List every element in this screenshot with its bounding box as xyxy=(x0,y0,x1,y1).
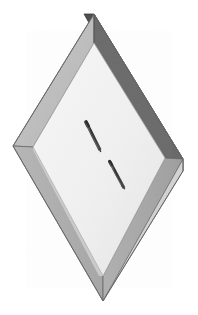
panel-face xyxy=(33,43,165,276)
rendered-object-scene: rhombus panel panel face frame border pa… xyxy=(0,0,198,315)
rhombus-panel-illustration xyxy=(0,0,198,315)
